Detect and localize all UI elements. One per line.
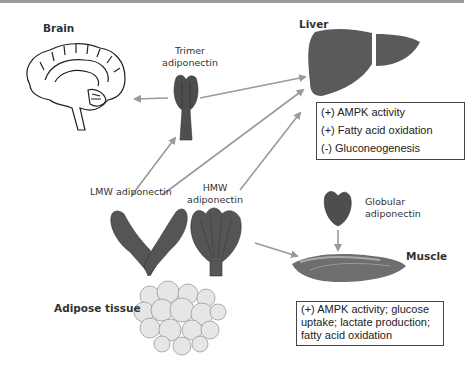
lmw-adiponectin-icon bbox=[111, 209, 187, 276]
adipose-tissue-icon bbox=[134, 281, 226, 355]
muscle-label: Muscle bbox=[406, 250, 447, 262]
trimer-label-line1: Trimer bbox=[150, 45, 230, 57]
muscle-effect-1: (+) AMPK activity; glucose bbox=[297, 303, 443, 316]
brain-icon bbox=[27, 44, 125, 130]
liver-icon bbox=[308, 29, 420, 96]
globular-label-line1: Globular bbox=[365, 196, 421, 208]
globular-label-line2: adiponectin bbox=[365, 208, 421, 220]
muscle-effect-2: uptake; lactate production; bbox=[297, 316, 443, 329]
hmw-label-line2: adiponectin bbox=[185, 194, 245, 206]
globular-adiponectin-icon bbox=[324, 192, 351, 227]
trimer-label: Trimer adiponectin bbox=[150, 45, 230, 69]
muscle-effects-box: (+) AMPK activity; glucose uptake; lacta… bbox=[296, 301, 444, 346]
hmw-label: HMW adiponectin bbox=[185, 182, 245, 206]
hmw-label-line1: HMW bbox=[185, 182, 245, 194]
muscle-effect-3: fatty acid oxidation bbox=[297, 329, 443, 342]
liver-effect-3: (-) Gluconeogenesis bbox=[317, 139, 464, 157]
liver-effects-box: (+) AMPK activity (+) Fatty acid oxidati… bbox=[316, 102, 465, 160]
lmw-label: LMW adiponectin bbox=[90, 186, 172, 198]
liver-effect-2: (+) Fatty acid oxidation bbox=[317, 121, 464, 139]
liver-label: Liver bbox=[299, 18, 328, 30]
trimer-label-line2: adiponectin bbox=[150, 57, 230, 69]
brain-label: Brain bbox=[43, 22, 74, 34]
globular-label: Globular adiponectin bbox=[365, 196, 421, 220]
hmw-adiponectin-icon bbox=[191, 208, 241, 276]
muscle-icon bbox=[292, 254, 406, 282]
adipose-label: Adipose tissue bbox=[54, 302, 141, 314]
trimer-adiponectin-icon bbox=[174, 75, 198, 140]
liver-effect-1: (+) AMPK activity bbox=[317, 103, 464, 121]
